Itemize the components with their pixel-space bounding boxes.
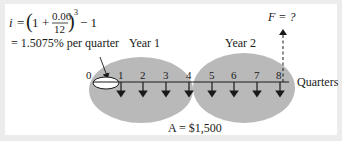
period-zero-ellipse — [93, 77, 119, 89]
tick-3: 3 — [163, 69, 169, 81]
formula-plus: + — [42, 15, 49, 30]
formula-one: 1 — [32, 15, 39, 30]
formula-minus-one: − 1 — [80, 15, 97, 30]
tick-6: 6 — [231, 69, 237, 81]
formula-lhs: i — [9, 15, 13, 30]
payment-label: A = $1,500 — [168, 121, 222, 135]
year1-ellipse — [89, 57, 193, 123]
formula-denominator: 12 — [54, 23, 65, 35]
tick-0: 0 — [86, 69, 92, 81]
cash-flow-diagram: i = ( 1 + 0.06 12 ) 3 − 1 = 1.5075% per … — [0, 0, 342, 141]
formula-result: = 1.5075% per quarter — [11, 36, 119, 50]
tick-4: 4 — [186, 69, 192, 81]
interest-formula: i = ( 1 + 0.06 12 ) 3 − 1 = 1.5075% per … — [9, 8, 119, 50]
tick-5: 5 — [209, 69, 215, 81]
formula-equals: = — [17, 15, 24, 30]
year2-label: Year 2 — [225, 36, 256, 50]
tick-7: 7 — [254, 69, 260, 81]
formula-exponent: 3 — [74, 8, 78, 17]
tick-1: 1 — [118, 69, 124, 81]
tick-8: 8 — [276, 69, 282, 81]
future-value-label: F = ? — [267, 10, 295, 24]
axis-unit-label: Quarters — [297, 75, 339, 89]
tick-2: 2 — [140, 69, 146, 81]
year1-label: Year 1 — [129, 36, 160, 50]
